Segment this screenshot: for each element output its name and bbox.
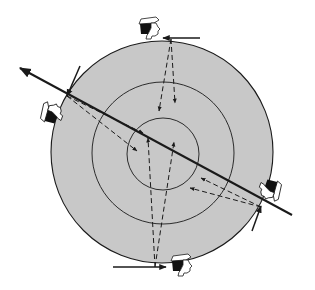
top-observer-icon xyxy=(139,17,160,39)
circles-group xyxy=(51,41,273,263)
outer-circle xyxy=(51,41,273,263)
bottom-observer-icon xyxy=(171,254,192,276)
diagram-stage: Concentric circles viewed by four observ… xyxy=(0,0,315,290)
concentric-circles-diagram xyxy=(0,0,315,290)
